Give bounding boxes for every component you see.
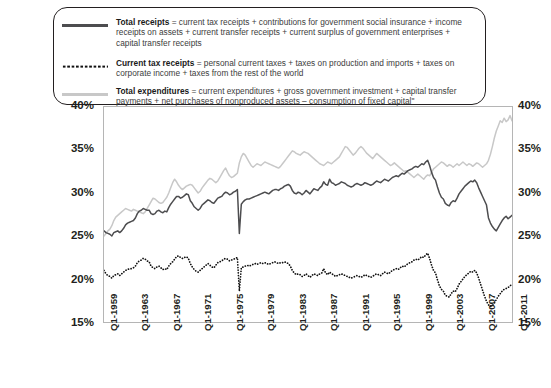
x-tick-Q1-1983: Q1-1983	[297, 294, 308, 331]
x-tick-Q1-1995: Q1-1995	[391, 294, 402, 331]
y-tick-left-30: 30%	[44, 186, 94, 198]
x-tick-Q1-1987: Q1-1987	[328, 294, 339, 331]
solid-light-line-icon	[62, 93, 108, 96]
legend-swatch-current-tax-receipts	[54, 58, 116, 69]
legend-text-total-expenditures: Total expenditures = current expenditure…	[116, 86, 485, 107]
y-tick-right-25: 25%	[518, 229, 551, 241]
x-tick-Q1-1967: Q1-1967	[171, 294, 182, 331]
x-tick-Q1-1975: Q1-1975	[234, 294, 245, 331]
y-tick-left-40: 40%	[44, 99, 94, 111]
x-tick-Q1-1963: Q1-1963	[139, 294, 150, 331]
legend-item-total-expenditures: Total expenditures = current expenditure…	[54, 86, 485, 107]
y-tick-left-35: 35%	[44, 142, 94, 154]
x-tick-Q1-1959: Q1-1959	[108, 294, 119, 331]
legend-term-current-tax-receipts: Current tax receipts	[116, 58, 194, 68]
x-tick-Q1-1999: Q1-1999	[423, 294, 434, 331]
x-tick-Q1-1979: Q1-1979	[265, 294, 276, 331]
chart-canvas	[104, 107, 512, 322]
legend-swatch-total-expenditures	[54, 86, 116, 96]
legend-item-total-receipts: Total receipts = current tax receipts + …	[54, 17, 485, 48]
x-tick-Q1-2007: Q1-2007	[486, 294, 497, 331]
legend: Total receipts = current tax receipts + …	[53, 7, 486, 105]
legend-term-total-receipts: Total receipts	[116, 17, 169, 27]
x-tick-Q1-2011: Q1-2011	[518, 294, 529, 331]
y-tick-right-20: 20%	[518, 273, 551, 285]
x-tick-Q1-1991: Q1-1991	[360, 294, 371, 331]
y-tick-left-20: 20%	[44, 273, 94, 285]
legend-item-current-tax-receipts: Current tax receipts = personal current …	[54, 58, 485, 79]
y-tick-right-40: 40%	[518, 99, 551, 111]
legend-swatch-total-receipts	[54, 17, 116, 27]
legend-text-current-tax-receipts: Current tax receipts = personal current …	[116, 58, 485, 79]
legend-text-total-receipts: Total receipts = current tax receipts + …	[116, 17, 485, 48]
y-tick-right-30: 30%	[518, 186, 551, 198]
y-tick-right-35: 35%	[518, 142, 551, 154]
chart-page: Total receipts = current tax receipts + …	[0, 0, 551, 388]
plot-area	[103, 106, 513, 323]
legend-term-total-expenditures: Total expenditures	[116, 86, 189, 96]
dotted-black-line-icon	[62, 65, 108, 69]
y-tick-left-15: 15%	[44, 316, 94, 328]
series-line-total-expenditures	[104, 116, 512, 236]
y-tick-left-25: 25%	[44, 229, 94, 241]
x-tick-Q1-2003: Q1-2003	[454, 294, 465, 331]
solid-dark-line-icon	[62, 24, 108, 27]
x-tick-Q1-1971: Q1-1971	[202, 294, 213, 331]
series-line-current-tax-receipts	[104, 253, 512, 306]
